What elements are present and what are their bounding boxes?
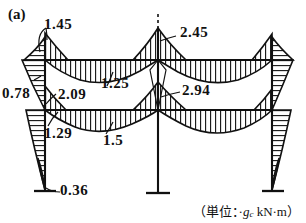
label-left-column-base: 0.36 — [60, 183, 88, 198]
label-top-centre-joint: 2.45 — [180, 25, 208, 40]
label-lower-centre-joint: 2.94 — [182, 83, 210, 98]
figure-tag: (a) — [8, 6, 26, 23]
unit-note: （単位：·gc kN·m） — [193, 201, 300, 220]
lower-beam-hogging-right-end — [254, 89, 272, 110]
left-column-moment-upper — [24, 37, 45, 60]
label-lower-beam-span: 1.5 — [103, 133, 123, 148]
label-top-left-beam-end: 1.45 — [44, 17, 72, 32]
label-upper-beam-span: 1.25 — [101, 76, 129, 91]
lower-beam-moment-area-right — [158, 110, 272, 133]
lower-beam-hogging-centre-joint — [133, 82, 186, 110]
right-column-moment-upper — [272, 37, 293, 60]
frame-moment-diagram-svg — [0, 0, 306, 223]
label-left-column-lower: 1.29 — [44, 126, 72, 141]
label-left-joint-left: 0.78 — [2, 86, 30, 101]
upper-beam-moment-area-right — [158, 60, 272, 83]
upper-beam-hogging-right-end — [252, 34, 272, 60]
bending-moment-diagram-figure: (a) 1.45 2.45 1.25 0.78 2.09 2.94 1.29 1… — [0, 0, 306, 223]
unit-prefix: （単位： — [193, 204, 239, 219]
right-column-moment-midstorey — [272, 60, 293, 110]
unit-suffix: ） — [287, 204, 300, 219]
unit-rest: kN·m — [253, 204, 287, 219]
label-left-joint-right: 2.09 — [58, 87, 86, 102]
upper-beam-hogging-left-end — [45, 33, 68, 60]
upper-beam-hogging-centre-joint — [133, 28, 186, 60]
